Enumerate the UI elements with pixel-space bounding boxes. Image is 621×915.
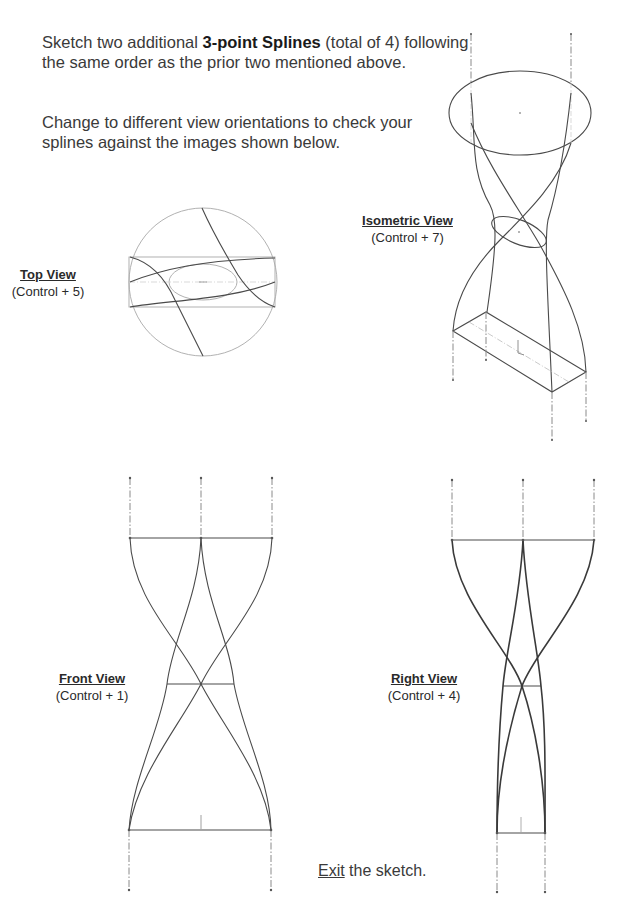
isometric-view-drawing bbox=[449, 33, 591, 441]
exit-link[interactable]: Exit bbox=[318, 862, 345, 879]
sketch-drawings: .ln { fill: none; stroke: #4a4a4a; strok… bbox=[0, 0, 621, 915]
exit-instruction: Exit the sketch. bbox=[318, 862, 427, 880]
top-view-drawing bbox=[129, 208, 277, 356]
right-view-drawing bbox=[451, 479, 596, 893]
front-view-drawing bbox=[128, 477, 274, 891]
